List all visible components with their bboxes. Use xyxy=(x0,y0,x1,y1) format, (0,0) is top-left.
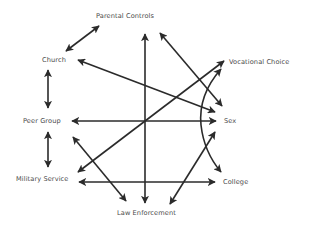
node-college: College xyxy=(223,178,248,186)
influence-diagram: Parental Controls Church Vocational Choi… xyxy=(0,0,309,225)
node-church: Church xyxy=(42,56,66,64)
node-parental-controls: Parental Controls xyxy=(96,12,154,20)
edge-military-vocational xyxy=(78,61,224,172)
node-vocational-choice: Vocational Choice xyxy=(229,58,289,66)
edge-law-sex xyxy=(170,132,215,204)
node-law-enforcement: Law Enforcement xyxy=(117,209,176,217)
node-peer-group: Peer Group xyxy=(23,117,61,125)
edge-church-sex xyxy=(78,60,215,112)
edge-parental-church xyxy=(66,26,99,51)
node-military-service: Military Service xyxy=(16,175,69,183)
node-sex: Sex xyxy=(224,117,236,125)
diagram-arrows xyxy=(0,0,309,225)
